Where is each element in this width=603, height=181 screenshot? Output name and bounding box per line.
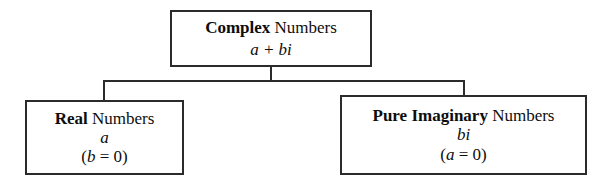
connector-leg-real [103,80,105,101]
node-real-expression: a [100,128,109,147]
node-real-plain: Numbers [88,109,155,128]
connector-horizontal-bar [103,80,465,82]
node-complex-expression: a + bi [250,40,292,59]
node-complex-numbers: Complex Numbers a + bi [170,10,372,67]
node-complex-title: Complex Numbers [205,18,337,37]
diagram-canvas: Complex Numbers a + bi Real Numbers a (b… [0,0,603,181]
node-pure-imaginary-title: Pure Imaginary Numbers [373,106,555,125]
node-real-title: Real Numbers [55,109,155,128]
node-real-condition: (b = 0) [81,147,127,166]
node-real-condition-rest: = 0) [95,147,127,166]
node-real-keyword: Real [55,109,88,128]
node-pure-imaginary-keyword: Pure Imaginary [373,106,488,125]
node-real-numbers: Real Numbers a (b = 0) [25,100,184,175]
connector-leg-pure-imaginary [463,80,465,96]
node-pure-imaginary-condition-rest: = 0) [454,145,486,164]
node-pure-imaginary-numbers: Pure Imaginary Numbers bi (a = 0) [340,95,587,175]
node-pure-imaginary-plain: Numbers [488,106,555,125]
node-complex-plain: Numbers [270,18,337,37]
node-pure-imaginary-condition: (a = 0) [440,145,486,164]
node-pure-imaginary-expression: bi [457,125,470,144]
node-complex-keyword: Complex [205,18,270,37]
